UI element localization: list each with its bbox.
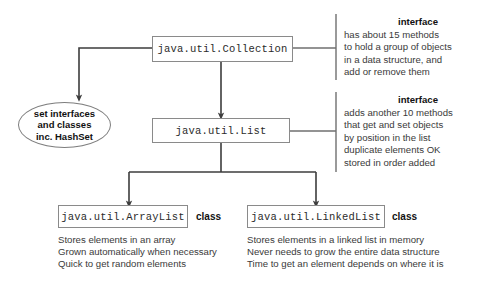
ellipse-line-3: inc. HashSet (36, 131, 93, 143)
annotation-collection-line-3: in a data structure, and (344, 54, 492, 66)
description-linkedlist-line-1: Stores elements in a linked list in memo… (247, 234, 443, 246)
node-label-list: java.util.List (175, 125, 266, 137)
annotation-list-line-1: adds another 10 methods (344, 107, 492, 119)
annotation-list-line-3: by position in the list (344, 132, 492, 144)
edge-collection-to-set (79, 48, 152, 98)
description-arraylist: Stores elements in an array Grown automa… (58, 234, 217, 271)
node-label-arraylist: java.util.ArrayList (61, 211, 185, 223)
ellipse-line-1: set interfaces (34, 108, 95, 120)
description-arraylist-line-3: Quick to get random elements (58, 258, 217, 270)
description-linkedlist-line-3: Time to get an element depends on where … (247, 258, 443, 270)
description-linkedlist-line-2: Never needs to grow the entire data stru… (247, 246, 443, 258)
kind-label-arraylist: class (196, 211, 221, 222)
node-label-collection: java.util.Collection (157, 43, 287, 55)
node-java-util-list[interactable]: java.util.List (152, 118, 290, 143)
ellipse-line-2: and classes (38, 119, 92, 131)
annotation-collection-line-1: has about 15 methods (344, 29, 492, 41)
description-arraylist-line-1: Stores elements in an array (58, 234, 217, 246)
annotation-list-line-5: stored in order added (344, 157, 492, 169)
description-arraylist-line-2: Grown automatically when necessary (58, 246, 217, 258)
annotation-list-line-2: that get and set objects (344, 119, 492, 131)
annotation-list: interface adds another 10 methods that g… (344, 94, 492, 169)
node-java-util-collection[interactable]: java.util.Collection (152, 36, 293, 62)
description-linkedlist: Stores elements in a linked list in memo… (247, 234, 443, 271)
annotation-list-line-4: duplicate elements OK (344, 144, 492, 156)
annotation-collection-line-2: to hold a group of objects (344, 41, 492, 53)
diagram-canvas: java.util.Collection set interfaces and … (0, 0, 492, 285)
node-set-interfaces-ellipse[interactable]: set interfaces and classes inc. HashSet (18, 102, 111, 148)
annotation-collection: interface has about 15 methods to hold a… (344, 16, 492, 79)
annotation-list-heading: interface (344, 94, 492, 106)
node-java-util-arraylist[interactable]: java.util.ArrayList (58, 205, 188, 228)
kind-label-linkedlist: class (392, 211, 417, 222)
node-label-linkedlist: java.util.LinkedList (251, 211, 381, 223)
node-java-util-linkedlist[interactable]: java.util.LinkedList (247, 205, 385, 228)
annotation-collection-heading: interface (344, 16, 492, 28)
annotation-collection-line-4: add or remove them (344, 66, 492, 78)
